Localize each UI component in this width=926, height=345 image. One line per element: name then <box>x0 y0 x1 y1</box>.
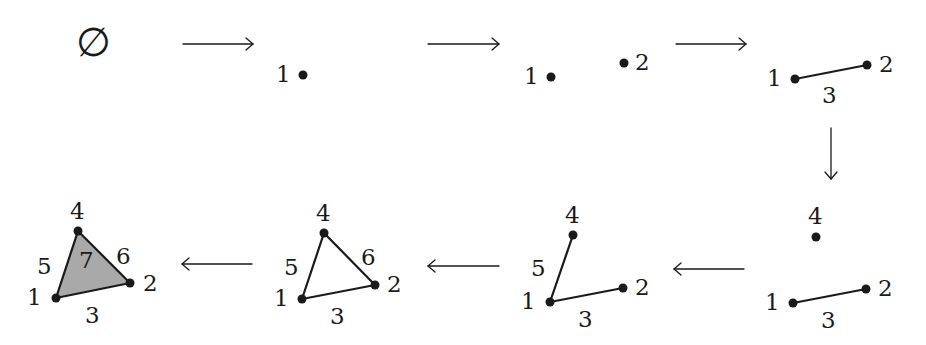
vertex-1 <box>547 73 556 82</box>
vertex-label-1: 1 <box>524 63 539 89</box>
empty-set-symbol: ∅ <box>76 19 111 65</box>
vertex-label-2: 2 <box>635 274 650 300</box>
arrow-right-1 <box>183 38 253 50</box>
edge-3 <box>793 289 866 303</box>
vertex-2 <box>619 284 628 293</box>
vertex-label-4: 4 <box>70 198 85 224</box>
vertex-label-2: 2 <box>878 275 893 301</box>
vertex-2 <box>620 59 629 68</box>
vertex-4 <box>320 229 329 238</box>
arrow-right-2 <box>428 38 499 50</box>
vertex-label-1: 1 <box>27 284 42 310</box>
face-label-7: 7 <box>79 247 94 273</box>
stage-vertex-1: 1 <box>276 61 308 87</box>
arrow-down <box>825 128 837 179</box>
stage-hollow-triangle: 1 2 4 5 6 3 <box>274 200 402 329</box>
vertex-2 <box>126 279 135 288</box>
vertex-2 <box>862 285 871 294</box>
vertex-label-1: 1 <box>767 65 782 91</box>
edge-3 <box>795 65 867 79</box>
simplicial-complex-construction-diagram: ∅ 1 1 2 1 2 3 <box>0 0 926 345</box>
edge-label-3: 3 <box>821 307 836 333</box>
vertex-4 <box>569 231 578 240</box>
vertex-2 <box>371 281 380 290</box>
vertex-label-1: 1 <box>274 285 289 311</box>
vertex-label-1: 1 <box>276 61 291 87</box>
arrow-left-3 <box>182 258 252 270</box>
edge-3 <box>550 288 623 302</box>
edge-label-3: 3 <box>578 306 593 332</box>
vertex-label-4: 4 <box>316 200 331 226</box>
vertex-1 <box>299 71 308 80</box>
vertex-label-4: 4 <box>808 203 823 229</box>
vertex-label-2: 2 <box>635 49 650 75</box>
edge-5 <box>550 235 573 302</box>
vertex-1 <box>789 299 798 308</box>
edge-3 <box>302 285 375 299</box>
vertex-1 <box>546 298 555 307</box>
vertex-4 <box>812 233 821 242</box>
vertex-label-2: 2 <box>879 51 894 77</box>
stage-vertices-1-2: 1 2 <box>524 49 650 89</box>
arrow-right-3 <box>676 38 746 50</box>
arrow-left-2 <box>428 260 499 272</box>
vertex-label-4: 4 <box>565 202 580 228</box>
edge-label-5: 5 <box>284 254 299 280</box>
edge-label-6: 6 <box>361 244 376 270</box>
stage-edge-3: 1 2 3 <box>767 51 894 108</box>
edge-label-6: 6 <box>116 243 131 269</box>
stage-edges-3-5: 1 2 4 5 3 <box>521 202 650 332</box>
vertex-2 <box>863 61 872 70</box>
stage-edge-3-vertex-4: 1 2 4 3 <box>765 203 893 333</box>
edge-label-3: 3 <box>85 302 100 328</box>
vertex-1 <box>791 75 800 84</box>
vertex-label-1: 1 <box>765 289 780 315</box>
vertex-4 <box>74 227 83 236</box>
edge-label-5: 5 <box>531 255 546 281</box>
stage-empty-set: ∅ <box>76 19 111 65</box>
stage-filled-triangle: 1 2 4 5 6 7 3 <box>27 198 158 328</box>
vertex-1 <box>52 294 61 303</box>
vertex-label-1: 1 <box>521 288 536 314</box>
vertex-1 <box>298 295 307 304</box>
edge-label-5: 5 <box>37 253 52 279</box>
vertex-label-2: 2 <box>143 270 158 296</box>
edge-label-3: 3 <box>330 303 345 329</box>
vertex-label-2: 2 <box>387 271 402 297</box>
edge-5 <box>302 233 324 299</box>
arrow-left-1 <box>674 263 744 275</box>
edge-label-3: 3 <box>822 82 837 108</box>
